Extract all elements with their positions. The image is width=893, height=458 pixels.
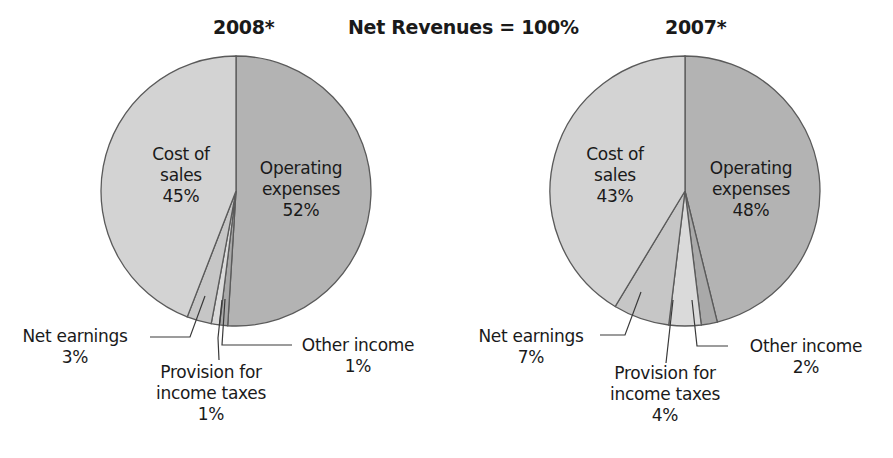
label-cost-of-sales-2008: Cost of sales 45% [136, 144, 226, 207]
pie-charts [0, 0, 893, 458]
label-other-income-2008: Other income 1% [292, 335, 424, 377]
label-provision-2007: Provision for income taxes 4% [600, 363, 730, 426]
label-cost-of-sales-2007: Cost of sales 43% [570, 144, 660, 207]
label-provision-2008: Provision for income taxes 1% [146, 362, 276, 425]
label-other-income-2007: Other income 2% [736, 336, 876, 378]
label-net-earnings-2008: Net earnings 3% [10, 326, 140, 368]
label-operating-expenses-2008: Operating expenses 52% [246, 158, 356, 221]
label-net-earnings-2007: Net earnings 7% [466, 326, 596, 368]
label-operating-expenses-2007: Operating expenses 48% [696, 158, 806, 221]
